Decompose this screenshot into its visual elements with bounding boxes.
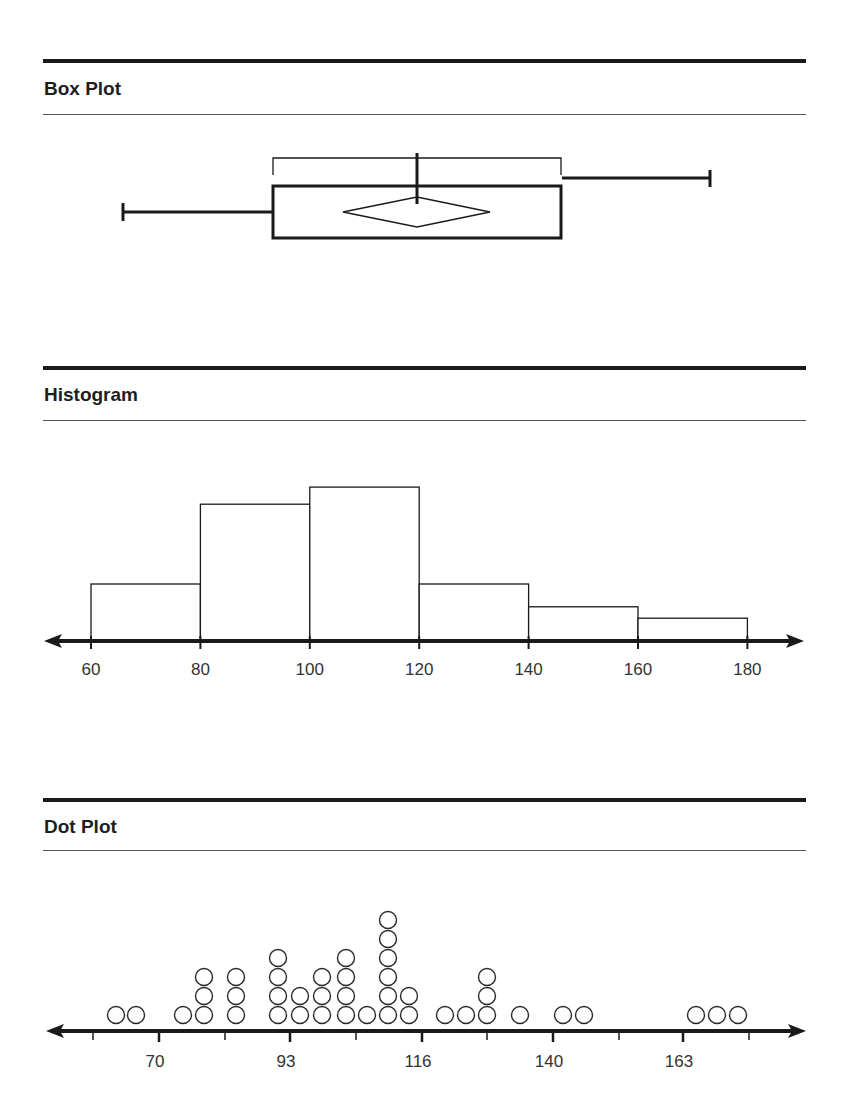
section-rule-thin: [43, 850, 806, 851]
dot-marker: [688, 1007, 705, 1024]
axis-tick-label: 120: [405, 660, 433, 679]
dot-marker: [292, 988, 309, 1005]
dot-marker: [709, 1007, 726, 1024]
dot-marker: [380, 988, 397, 1005]
histogram-bar: [419, 584, 528, 641]
dot-marker: [228, 1007, 245, 1024]
dot-marker: [576, 1007, 593, 1024]
axis-tick-label: 160: [624, 660, 652, 679]
histogram-bar: [529, 607, 638, 641]
dot-marker: [196, 1007, 213, 1024]
dot-marker: [380, 950, 397, 967]
axis-tick-label: 93: [277, 1052, 296, 1071]
dot-marker: [555, 1007, 572, 1024]
dot-marker: [338, 969, 355, 986]
histogram: 6080100120140160180: [44, 487, 804, 679]
dot-marker: [479, 969, 496, 986]
dot-marker: [512, 1007, 529, 1024]
axis-tick-label: 80: [191, 660, 210, 679]
dot-plot: 7093116140163: [46, 912, 806, 1072]
dot-marker: [228, 969, 245, 986]
axis-tick-label: 116: [404, 1052, 431, 1071]
axis-tick-label: 70: [146, 1052, 165, 1071]
dot-marker: [228, 988, 245, 1005]
dot-marker: [292, 1007, 309, 1024]
dot-marker: [314, 1007, 331, 1024]
dot-marker: [359, 1007, 376, 1024]
dot-marker: [380, 931, 397, 948]
dot-marker: [270, 988, 287, 1005]
axis-tick-label: 163: [665, 1052, 693, 1071]
dot-marker: [108, 1007, 125, 1024]
axis-tick-label: 140: [535, 1052, 563, 1071]
dot-marker: [380, 969, 397, 986]
section-rule-thin: [43, 420, 806, 421]
dot-marker: [270, 1007, 287, 1024]
histogram-bar: [200, 504, 309, 641]
dot-marker: [314, 988, 331, 1005]
dot-marker: [338, 1007, 355, 1024]
histogram-bar: [91, 584, 200, 641]
section-title: Histogram: [44, 384, 138, 406]
axis-tick-label: 100: [296, 660, 324, 679]
dot-marker: [401, 1007, 418, 1024]
axis-tick-label: 60: [82, 660, 101, 679]
section-rule-thick: [43, 366, 806, 370]
section-rule-thick: [43, 798, 806, 802]
dot-marker: [270, 969, 287, 986]
dot-marker: [479, 1007, 496, 1024]
axis-tick-label: 140: [514, 660, 542, 679]
dot-marker: [196, 988, 213, 1005]
dot-marker: [380, 912, 397, 929]
dot-marker: [479, 988, 496, 1005]
dot-marker: [338, 950, 355, 967]
dot-marker: [437, 1007, 454, 1024]
dot-marker: [314, 969, 331, 986]
dot-marker: [401, 988, 418, 1005]
charts-canvas: 6080100120140160180 7093116140163: [0, 0, 849, 1115]
dot-marker: [270, 950, 287, 967]
box-plot: [123, 153, 710, 238]
dot-marker: [380, 1007, 397, 1024]
dot-marker: [175, 1007, 192, 1024]
dot-marker: [196, 969, 213, 986]
histogram-bar: [310, 487, 419, 641]
dot-marker: [128, 1007, 145, 1024]
dot-marker: [338, 988, 355, 1005]
section-title: Dot Plot: [44, 816, 117, 838]
dot-marker: [458, 1007, 475, 1024]
dot-marker: [730, 1007, 747, 1024]
histogram-bar: [638, 618, 747, 641]
axis-tick-label: 180: [733, 660, 761, 679]
